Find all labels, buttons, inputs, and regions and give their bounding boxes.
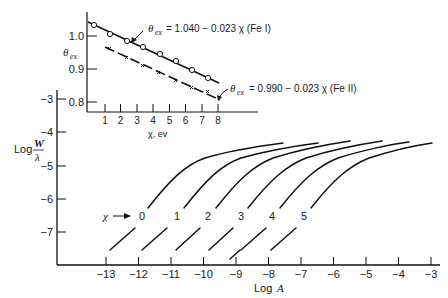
svg-text:−3: −3 [40,93,53,105]
svg-text:= 0.990 − 0.023 χ (Fe II): = 0.990 − 0.023 χ (Fe II) [249,83,357,94]
svg-text:5: 5 [167,115,173,126]
svg-text:ex: ex [155,28,163,37]
main-x-ticks [106,257,431,265]
svg-text:A: A [276,282,284,294]
svg-text:−13: −13 [97,268,116,280]
growth-curves [110,141,432,259]
svg-text:−6: −6 [327,268,340,280]
svg-text:θ: θ [230,82,236,94]
curve-labels: 0 1 2 3 4 5 [139,210,307,222]
chi-annotation: χ [102,210,131,222]
curve-chi-1 [142,143,318,250]
inset-y-ticks [87,36,97,102]
svg-text:ex: ex [237,88,245,97]
fe2-equation: θ ex = 0.990 − 0.023 χ (Fe II) [217,82,357,101]
inset-chart: 1.0 0.9 0.8 θ ex 1 2 3 4 5 6 7 8 [63,12,357,139]
svg-text:−12: −12 [129,268,148,280]
svg-text:θ: θ [148,22,154,34]
svg-text:Log: Log [14,143,32,155]
svg-text:−5: −5 [360,268,373,280]
svg-text:χ: χ [102,210,109,222]
inset-x-tick-labels: 1 2 3 4 5 6 7 8 [102,115,221,126]
svg-text:6: 6 [183,115,189,126]
svg-text:−4: −4 [392,268,405,280]
svg-text:−7: −7 [40,226,53,238]
inset-x-ticks [105,104,218,112]
svg-text:ex: ex [70,52,78,61]
svg-text:4: 4 [150,115,156,126]
inset-x-label: χ, ev [148,129,168,139]
svg-text:5: 5 [301,210,307,222]
curve-chi-5 [271,143,432,250]
svg-text:1.0: 1.0 [69,30,84,42]
svg-text:−8: −8 [262,268,275,280]
curve-chi-3 [209,141,382,259]
fe1-equation: θ ex = 1.040 − 0.023 χ (Fe I) [131,22,271,43]
svg-text:W: W [34,137,45,149]
inset-y-tick-labels: 1.0 0.9 0.8 [69,30,84,108]
svg-text:−7: −7 [295,268,308,280]
svg-text:−11: −11 [162,268,180,280]
svg-text:3: 3 [238,210,244,222]
svg-text:2: 2 [118,115,124,126]
svg-text:4: 4 [269,210,275,222]
svg-text:θ: θ [63,46,69,58]
main-x-label: Log A [254,282,284,294]
svg-text:λ: λ [34,151,40,163]
svg-text:1: 1 [174,210,180,222]
svg-text:−6: −6 [40,193,53,205]
inset-y-label: θ ex [63,46,78,61]
svg-text:−10: −10 [194,268,213,280]
curve-chi-2 [176,141,350,250]
svg-text:−9: −9 [230,268,243,280]
svg-text:−5: −5 [40,160,53,172]
svg-text:7: 7 [199,115,205,126]
main-y-tick-labels: −3 −4 −5 −6 −7 [40,93,53,238]
svg-text:−3: −3 [425,268,438,280]
svg-text:0.8: 0.8 [69,96,84,108]
svg-text:8: 8 [215,115,221,126]
main-x-tick-labels: −13 −12 −11 −10 −9 −8 −7 −6 −5 −4 −3 [97,268,438,280]
curve-of-growth-figure: −3 −4 −5 −6 −7 Log W λ −13 [0,0,448,298]
svg-text:3: 3 [134,115,140,126]
svg-text:Log: Log [254,282,272,294]
main-chart: −3 −4 −5 −6 −7 Log W λ −13 [14,90,440,294]
svg-text:1: 1 [102,115,108,126]
svg-text:0: 0 [139,210,145,222]
svg-text:2: 2 [205,210,211,222]
svg-text:= 1.040 − 0.023 χ (Fe I): = 1.040 − 0.023 χ (Fe I) [166,23,271,34]
curve-chi-4 [241,142,409,250]
svg-text:0.9: 0.9 [69,63,84,75]
main-y-ticks [57,99,66,232]
